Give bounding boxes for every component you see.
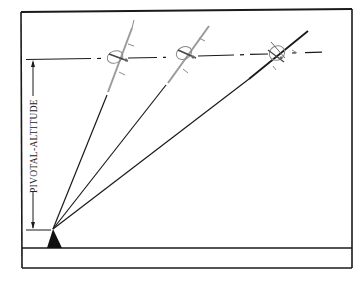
pivotal-altitude-label: PIVOTAL-ALTITUDE [29, 99, 39, 193]
pivotal-altitude-diagram: PIVOTAL-ALTITUDE [0, 0, 360, 283]
aircraft-1-icon [105, 20, 134, 92]
aircraft-3-icon [249, 31, 308, 79]
sight-line-3 [53, 79, 249, 229]
sight-lines [53, 79, 249, 229]
pivot-point-triangle [47, 229, 62, 248]
sight-line-2 [53, 85, 166, 229]
outer-frame [21, 9, 352, 268]
aircraft-2-icon [168, 26, 209, 83]
